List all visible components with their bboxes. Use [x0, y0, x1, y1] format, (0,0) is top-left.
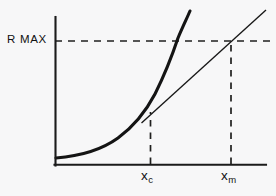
tangent-straight-line: [142, 10, 267, 123]
x-max-axis-label: xm: [221, 168, 236, 183]
x-critical-subscript: c: [148, 174, 153, 185]
x-max-variable: x: [221, 168, 228, 183]
r-max-axis-label: R MAX: [7, 33, 47, 45]
figure-container: R MAX xc xm: [0, 0, 276, 196]
plot-canvas: [0, 0, 276, 196]
x-critical-variable: x: [141, 168, 148, 183]
exponential-curve: [56, 11, 190, 158]
x-critical-axis-label: xc: [141, 168, 153, 183]
x-max-subscript: m: [228, 174, 236, 185]
